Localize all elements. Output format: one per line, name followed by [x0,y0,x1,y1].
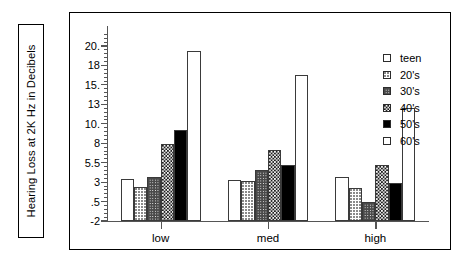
y-tick-minor [104,186,108,187]
y-tick-minor [104,209,108,210]
legend-label: 60's [400,135,420,147]
y-tick-minor [104,112,108,113]
y-tick-minor [104,57,108,58]
y-tick-label: .5 [91,196,100,208]
y-tick-minor [104,131,108,132]
y-tick-label: 3 [94,176,100,188]
legend-item-60s: 60's [383,133,421,150]
y-tick-minor [104,119,108,120]
legend-label: 40's [400,102,420,114]
chart-figure: Hearing Loss at 2K Hz in Decibels 20.181… [0,0,463,261]
y-axis-title-box: Hearing Loss at 2K Hz in Decibels [18,24,44,238]
y-tick-minor [104,154,108,155]
y-tick-label: 13 [88,98,100,110]
y-tick-mark [101,104,108,105]
y-tick-label: 10. [85,118,100,130]
bar-med-20s [241,181,254,221]
bar-low-50s [174,130,187,221]
bar-med-40s [268,150,281,221]
y-tick-minor [104,197,108,198]
y-tick-minor [104,147,108,148]
y-tick-minor [104,139,108,140]
y-tick-minor [104,81,108,82]
legend-swatch-icon [383,54,391,62]
y-tick-mark [101,65,108,66]
legend-swatch-icon [383,87,391,95]
y-tick-minor [104,108,108,109]
bar-med-60s [295,75,308,221]
y-tick-minor [104,217,108,218]
x-tick-label: low [152,232,169,244]
y-tick-minor [104,38,108,39]
legend-swatch-icon [383,120,391,128]
y-tick-minor [104,135,108,136]
y-tick-minor [104,92,108,93]
y-tick-minor [104,34,108,35]
y-tick-minor [104,213,108,214]
legend-label: 50's [400,118,420,130]
bar-high-40s [375,165,388,221]
legend-label: teen [400,52,421,64]
bar-low-60s [187,51,200,221]
y-tick-label: 18 [88,59,100,71]
y-tick-mark [101,123,108,124]
y-tick-minor [104,178,108,179]
chart-legend: teen20's30's40's50's60's [383,50,421,149]
bar-low-30s [147,177,160,221]
legend-item-teen: teen [383,50,421,67]
y-tick-minor [104,174,108,175]
y-axis-title-label: Hearing Loss at 2K Hz in Decibels [25,44,37,217]
legend-swatch-icon [383,104,391,112]
legend-item-30s: 30's [383,83,421,100]
y-tick-mark [101,143,108,144]
legend-label: 30's [400,85,420,97]
x-tick-label: med [257,232,279,244]
legend-item-20s: 20's [383,67,421,84]
y-tick-minor [104,170,108,171]
y-tick-minor [104,189,108,190]
x-tick-mark [268,222,269,229]
x-tick-mark [375,222,376,229]
bar-high-teen [335,177,348,221]
legend-label: 20's [400,69,420,81]
bar-low-20s [134,187,147,221]
y-tick-label: 5.5 [85,157,100,169]
y-tick-minor [104,151,108,152]
legend-item-50s: 50's [383,116,421,133]
bar-low-teen [121,179,134,221]
y-tick-mark [101,84,108,85]
bar-low-40s [161,144,174,221]
y-tick-mark [101,182,108,183]
y-tick-minor [104,53,108,54]
y-tick-minor [104,116,108,117]
y-tick-minor [104,77,108,78]
bar-med-30s [255,170,268,221]
x-tick-label: high [364,232,386,244]
y-tick-minor [104,193,108,194]
bar-med-teen [228,180,241,221]
bar-med-50s [281,165,294,221]
y-tick-mark [101,162,108,163]
y-tick-label: 15. [85,79,100,91]
y-tick-label: -2 [90,215,100,227]
y-tick-minor [104,69,108,70]
y-tick-minor [104,49,108,50]
y-tick-mark [101,45,108,46]
x-tick-mark [161,222,162,229]
y-tick-minor [104,166,108,167]
y-tick-minor [104,96,108,97]
y-tick-minor [104,88,108,89]
y-tick-minor [104,158,108,159]
y-tick-label: 20. [85,40,100,52]
y-tick-minor [104,42,108,43]
y-tick-minor [104,73,108,74]
bar-high-20s [349,188,362,221]
y-tick-mark [101,201,108,202]
legend-swatch-icon [383,137,391,145]
bar-high-30s [362,202,375,221]
y-tick-minor [104,100,108,101]
y-tick-minor [104,127,108,128]
y-tick-mark [101,220,108,221]
legend-swatch-icon [383,71,391,79]
bar-high-50s [389,183,402,221]
